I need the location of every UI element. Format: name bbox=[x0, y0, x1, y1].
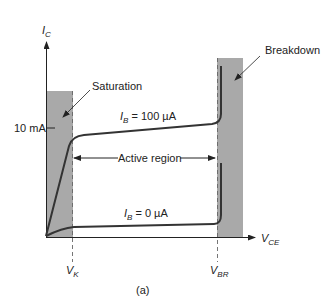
active-region-label: Active region bbox=[118, 152, 182, 164]
breakdown-label: Breakdown bbox=[265, 44, 320, 56]
saturation-region bbox=[46, 91, 73, 237]
x-axis-label: VCE bbox=[261, 232, 280, 247]
curve-label-ib-100: IB = 100 µA bbox=[120, 110, 177, 125]
curve-label-ib-0: IB = 0 µA bbox=[124, 207, 168, 222]
y-tick-label: 10 mA bbox=[14, 122, 46, 134]
saturation-label: Saturation bbox=[92, 80, 142, 92]
y-axis-label: IC bbox=[42, 24, 51, 39]
vk-label: VK bbox=[66, 264, 79, 279]
vbr-label: VBR bbox=[210, 264, 229, 279]
transistor-characteristic-diagram: IC 10 mA Saturation Breakdown Active reg… bbox=[0, 0, 333, 306]
figure-caption: (a) bbox=[136, 284, 149, 296]
